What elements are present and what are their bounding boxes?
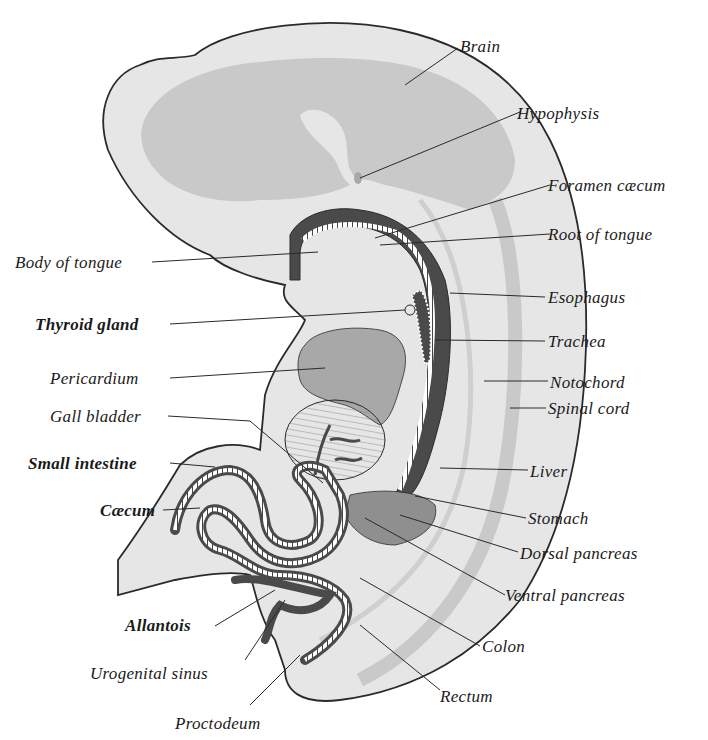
label-rectum: Rectum	[440, 688, 493, 705]
label-brain: Brain	[460, 38, 500, 55]
thyroid-gland-structure	[405, 305, 415, 315]
label-dorsal-pancreas: Dorsal pancreas	[520, 545, 638, 562]
label-stomach: Stomach	[528, 510, 589, 527]
label-small-intestine: Small intestine	[28, 455, 137, 472]
label-urogenital-sinus: Urogenital sinus	[90, 665, 208, 682]
label-caecum: Cæcum	[100, 502, 155, 519]
label-colon: Colon	[482, 638, 525, 655]
label-foramen-caecum: Foramen cæcum	[548, 177, 666, 194]
label-pericardium: Pericardium	[50, 370, 139, 387]
label-liver: Liver	[530, 463, 567, 480]
label-thyroid-gland: Thyroid gland	[35, 316, 139, 333]
label-notochord: Notochord	[550, 374, 625, 391]
label-body-of-tongue: Body of tongue	[15, 254, 122, 271]
label-allantois: Allantois	[125, 617, 191, 634]
label-ventral-pancreas: Ventral pancreas	[505, 587, 625, 604]
label-proctodeum: Proctodeum	[175, 715, 260, 732]
label-hypophysis: Hypophysis	[517, 105, 599, 122]
embryo-sagittal-section-figure: Brain Hypophysis Foramen cæcum Root of t…	[0, 0, 708, 740]
label-esophagus: Esophagus	[548, 289, 625, 306]
label-spinal-cord: Spinal cord	[548, 400, 630, 417]
label-root-of-tongue: Root of tongue	[548, 226, 652, 243]
label-gall-bladder: Gall bladder	[50, 408, 141, 425]
label-trachea: Trachea	[548, 333, 606, 350]
